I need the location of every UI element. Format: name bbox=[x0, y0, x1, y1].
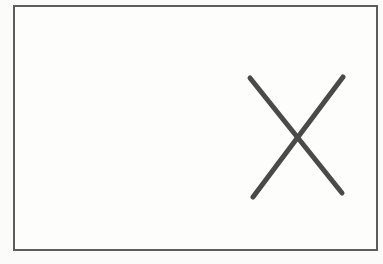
rectangle-frame bbox=[13, 5, 378, 251]
figure-canvas bbox=[0, 0, 383, 264]
